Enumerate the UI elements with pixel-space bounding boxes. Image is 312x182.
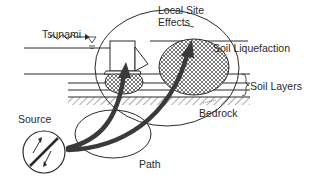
- local-site-effects-label-line2: Effects: [158, 17, 190, 28]
- soil-liquefaction-label: Soil Liquefaction: [213, 43, 290, 54]
- soil-layers-label: Soil Layers: [250, 81, 302, 92]
- fault-source-icon: [23, 131, 65, 173]
- tsunami-label: Tsunami: [42, 29, 81, 40]
- local-site-effects-label-line1: Local Site: [158, 5, 204, 16]
- bedrock-label: Bedrock: [199, 108, 238, 119]
- bedrock-layer: [68, 97, 250, 105]
- water-level-icon: [88, 37, 96, 49]
- soil-layers-brace: [242, 74, 249, 96]
- path-label: Path: [139, 159, 161, 170]
- source-label: Source: [18, 114, 51, 125]
